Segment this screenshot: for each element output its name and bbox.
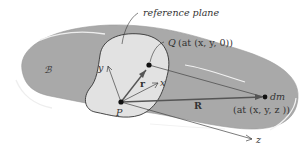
R-label: R bbox=[194, 100, 202, 111]
z-label: z bbox=[255, 134, 262, 145]
q-label: Q bbox=[168, 37, 176, 48]
y-label: y bbox=[97, 62, 104, 73]
plane-label: reference plane bbox=[143, 7, 219, 18]
point-Q bbox=[146, 62, 151, 67]
x-label: x bbox=[160, 77, 166, 88]
q-coords: (at (x, y, 0)) bbox=[178, 37, 233, 48]
point-P bbox=[118, 99, 123, 104]
rigid-body-diagram: ℬ reference plane Q (at (x, y, 0)) y x z… bbox=[0, 0, 305, 155]
point-dm bbox=[263, 95, 268, 100]
p-label: P bbox=[115, 107, 123, 118]
dm-coords: (at (x, y, z )) bbox=[233, 104, 290, 115]
dm-label: dm bbox=[270, 91, 285, 102]
